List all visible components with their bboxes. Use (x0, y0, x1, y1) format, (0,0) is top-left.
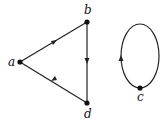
graph-canvas: a b d c (0, 0, 166, 121)
node-b (84, 19, 89, 24)
node-a (17, 59, 22, 64)
node-d (84, 100, 89, 105)
edge-c-loop (121, 24, 159, 88)
label-b: b (84, 3, 92, 17)
label-c: c (137, 90, 144, 104)
arrow-c-loop-icon (119, 55, 124, 61)
label-d: d (84, 107, 92, 121)
arrow-d-a-icon (51, 76, 57, 81)
arrow-a-b-icon (51, 40, 57, 45)
arrow-b-d-icon (85, 58, 90, 64)
label-a: a (8, 55, 15, 69)
edge-d-a (20, 62, 87, 103)
